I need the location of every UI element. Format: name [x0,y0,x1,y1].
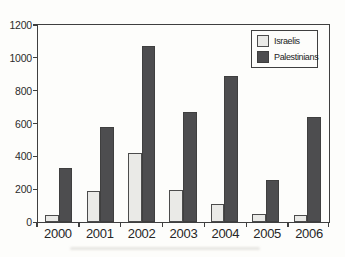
scan-artifact [70,247,260,250]
x-axis-label-2004: 2004 [204,226,246,240]
legend-swatch-palestinians [257,51,269,63]
legend-label-israelis: Israelis [274,36,300,46]
y-axis-label-0: 0 [0,216,32,228]
legend-item-palestinians: Palestinians [257,51,317,63]
bar-2001-palestinians [100,127,114,222]
bar-2002-israelis [128,153,142,222]
y-tick-1200 [33,24,37,26]
y-axis-label-800: 800 [0,84,32,96]
y-tick-200 [33,189,37,191]
y-axis-label-200: 200 [0,183,32,195]
bar-2002-palestinians [142,46,156,222]
legend-label-palestinians: Palestinians [274,52,318,62]
x-axis-label-2003: 2003 [163,226,205,240]
x-axis-label-2002: 2002 [121,226,163,240]
y-tick-400 [33,156,37,158]
bar-2004-israelis [211,204,225,222]
y-tick-600 [33,123,37,125]
x-axis-label-2005: 2005 [246,226,288,240]
x-axis-label-2006: 2006 [288,226,330,240]
bar-2006-israelis [294,215,308,222]
y-axis-label-400: 400 [0,150,32,162]
legend: Israelis Palestinians [251,30,318,68]
bar-2003-palestinians [183,112,197,222]
y-axis-label-1000: 1000 [0,51,32,63]
y-tick-800 [33,90,37,92]
x-axis-label-2000: 2000 [37,226,79,240]
bar-2003-israelis [169,190,183,222]
y-tick-1000 [33,57,37,59]
bar-2004-palestinians [224,76,238,222]
bar-2005-palestinians [266,180,280,222]
x-axis-label-2001: 2001 [79,226,121,240]
bar-2000-palestinians [59,168,73,222]
bar-2001-israelis [87,191,101,222]
bar-chart-figure: 020040060080010001200 200020012002200320… [0,0,345,257]
y-axis-label-600: 600 [0,117,32,129]
legend-swatch-israelis [257,35,269,47]
y-axis-label-1200: 1200 [0,19,32,31]
bar-2000-israelis [45,215,59,222]
bar-2005-israelis [252,214,266,222]
legend-item-israelis: Israelis [257,35,317,47]
bar-2006-palestinians [307,117,321,222]
